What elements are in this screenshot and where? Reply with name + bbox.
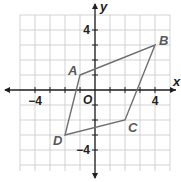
x-axis-arrow-left-icon: [4, 87, 10, 93]
axes: [4, 3, 176, 179]
y-tick-label: 4: [83, 23, 90, 37]
vertex-label-a: A: [67, 63, 77, 78]
x-axis-label: x: [172, 74, 181, 89]
y-axis-arrow-down-icon: [92, 173, 98, 179]
y-tick-label: −4: [76, 143, 90, 157]
y-axis-label: y: [99, 0, 108, 14]
y-axis-arrow-up-icon: [92, 3, 98, 9]
x-tick-label: −4: [28, 94, 42, 108]
vertex-label-d: D: [53, 133, 63, 148]
coordinate-plane: −444−4 ABCD x y O: [0, 0, 181, 182]
vertex-label-b: B: [159, 33, 168, 48]
x-tick-label: 4: [152, 94, 159, 108]
origin-label: O: [83, 93, 93, 107]
vertex-label-c: C: [128, 120, 138, 135]
